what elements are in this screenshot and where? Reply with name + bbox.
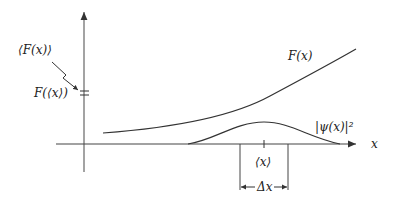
diagram-canvas: ⟨F(x)⟩ F(⟨x⟩) F(x) |ψ(x)|² x ⟨x⟩ Δx — [0, 0, 400, 207]
label-psi-squared: |ψ(x)|² — [315, 120, 354, 134]
label-x-axis: x — [371, 137, 378, 151]
label-F-curve: F(x) — [287, 49, 313, 63]
label-expectation-F: ⟨F(x)⟩ — [18, 43, 52, 57]
label-delta-x: Δx — [256, 180, 273, 194]
label-F-of-expectation: F(⟨x⟩) — [33, 86, 68, 100]
label-mean-x: ⟨x⟩ — [255, 155, 271, 169]
